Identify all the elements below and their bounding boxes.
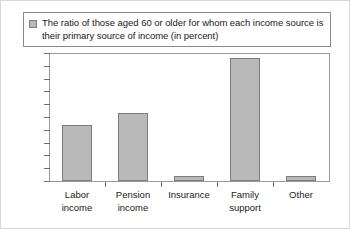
y-axis-tick-0 bbox=[44, 181, 50, 182]
y-axis-tick-45 bbox=[44, 66, 50, 67]
x-axis-category-family-support-line1: Family bbox=[217, 189, 273, 202]
bar-labor-income bbox=[62, 125, 92, 181]
x-axis-tick-1 bbox=[105, 182, 106, 187]
x-axis-category-family-support: Family support bbox=[217, 189, 273, 214]
y-axis-tick-40 bbox=[44, 79, 50, 80]
x-axis-tick-3 bbox=[217, 182, 218, 187]
x-axis-tick-2 bbox=[161, 182, 162, 187]
x-axis-category-family-support-line2: support bbox=[217, 202, 273, 215]
bar-family-support bbox=[230, 58, 260, 181]
y-axis-tick-5 bbox=[44, 168, 50, 169]
legend-swatch-icon bbox=[29, 20, 37, 28]
bar-pension-income bbox=[118, 113, 148, 181]
legend-label: The ratio of those aged 60 or older for … bbox=[42, 17, 325, 42]
bar-other bbox=[286, 176, 316, 181]
bar-chart-figure: The ratio of those aged 60 or older for … bbox=[0, 0, 350, 229]
x-axis-category-other-line1: Other bbox=[273, 189, 329, 202]
y-axis-tick-35 bbox=[44, 91, 50, 92]
y-axis-tick-30 bbox=[44, 104, 50, 105]
y-axis-tick-20 bbox=[44, 130, 50, 131]
x-axis-category-labor-income-line1: Labor bbox=[49, 189, 105, 202]
x-axis-category-insurance-line1: Insurance bbox=[161, 189, 217, 202]
x-axis-category-labor-income-line2: income bbox=[49, 202, 105, 215]
y-axis-tick-25 bbox=[44, 117, 50, 118]
x-axis-category-pension-income-line2: income bbox=[105, 202, 161, 215]
x-axis-category-other: Other bbox=[273, 189, 329, 202]
x-axis-category-pension-income: Pension income bbox=[105, 189, 161, 214]
bar-insurance bbox=[174, 176, 204, 181]
y-axis-tick-15 bbox=[44, 143, 50, 144]
x-axis-category-labor-income: Labor income bbox=[49, 189, 105, 214]
chart-legend: The ratio of those aged 60 or older for … bbox=[23, 12, 331, 47]
y-axis-tick-50 bbox=[44, 53, 50, 54]
x-axis-category-pension-income-line1: Pension bbox=[105, 189, 161, 202]
x-axis-tick-4 bbox=[273, 182, 274, 187]
x-axis-category-insurance: Insurance bbox=[161, 189, 217, 202]
y-axis-tick-10 bbox=[44, 155, 50, 156]
